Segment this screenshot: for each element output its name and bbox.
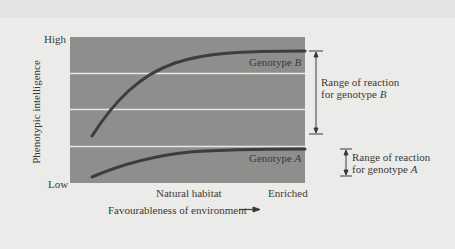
y-tick-low: Low bbox=[48, 178, 68, 190]
x-tick-enriched: Enriched bbox=[268, 187, 308, 199]
x-tick-natural-habitat: Natural habitat bbox=[156, 187, 222, 199]
x-axis-label: Favourableness of environment bbox=[108, 204, 247, 216]
y-tick-high: High bbox=[44, 33, 66, 45]
genotype-b-label: Genotype B bbox=[249, 56, 301, 68]
y-axis-label: Phenotypic intelligence bbox=[30, 42, 42, 182]
range-a-bracket bbox=[340, 149, 352, 176]
range-b-text: Range of reaction for genotype B bbox=[321, 76, 399, 100]
range-a-text: Range of reaction for genotype A bbox=[352, 151, 430, 175]
genotype-a-label: Genotype A bbox=[249, 152, 301, 164]
